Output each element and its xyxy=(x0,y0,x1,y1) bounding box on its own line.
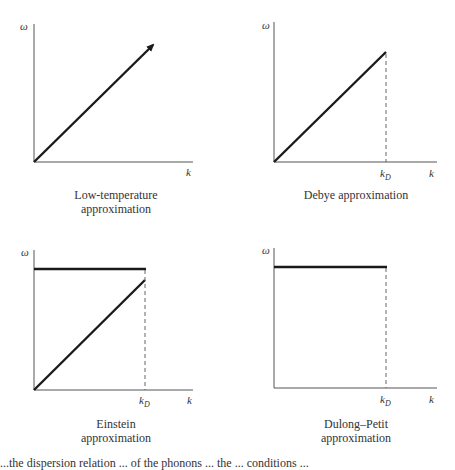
caption-einstein: Einstein approximation xyxy=(16,417,216,445)
panel-debye: ω kD k xyxy=(262,19,437,182)
y-axis-label: ω xyxy=(262,19,270,31)
linear-dispersion-arrow xyxy=(34,45,153,162)
kd-tick-label: kD xyxy=(139,394,150,409)
caption-dulong-petit: Dulong–Petit approximation xyxy=(256,417,455,445)
caption-line: Low-temperature xyxy=(16,188,216,202)
linear-dispersion-line xyxy=(274,52,386,162)
x-axis-label: k xyxy=(187,394,193,406)
caption-debye: Debye approximation xyxy=(256,188,455,202)
caption-line: approximation xyxy=(16,202,216,216)
caption-low-temperature: Low-temperature approximation xyxy=(16,188,216,216)
caption-line: approximation xyxy=(16,431,216,445)
x-axis-label: k xyxy=(429,167,435,179)
kd-tick-label: kD xyxy=(380,167,391,182)
caption-line: Debye approximation xyxy=(256,188,455,202)
kd-tick-label: kD xyxy=(380,393,391,408)
panel-einstein: ω kD k xyxy=(21,246,193,409)
caption-line: Einstein xyxy=(16,417,216,431)
x-axis-label: k xyxy=(429,393,435,405)
x-axis-label: k xyxy=(186,166,192,178)
panel-dulong-petit: ω kD k xyxy=(262,244,437,408)
truncated-figure-caption: ...the dispersion relation ... of the ph… xyxy=(0,456,455,470)
linear-dispersion-line xyxy=(34,280,145,390)
panel-low-temperature: ω k xyxy=(20,20,193,178)
caption-line: Dulong–Petit xyxy=(256,417,455,431)
y-axis-label: ω xyxy=(21,246,29,258)
y-axis-label: ω xyxy=(262,244,270,256)
caption-line: approximation xyxy=(256,431,455,445)
y-axis-label: ω xyxy=(20,20,28,32)
footer-text: ...the dispersion relation ... of the ph… xyxy=(0,456,309,470)
